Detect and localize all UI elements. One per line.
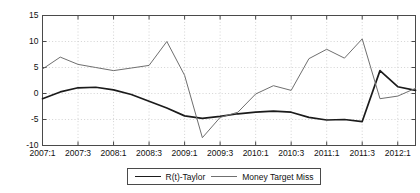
chart-figure: 151050-5-10 2007:12007:32008:12008:32009… [0,0,420,193]
plot-frame [43,16,416,146]
plot-canvas [0,0,420,193]
y-axis-tick-label: 10 [29,36,38,46]
y-axis-tick-label: 0 [34,88,39,98]
series-line-r-t-taylor [43,71,416,122]
y-axis-tick-label: -5 [31,114,39,124]
legend-line-swatch-icon [135,176,161,177]
y-axis-tick-label: 15 [29,10,38,20]
legend-line-swatch-icon [211,176,237,177]
legend-label: R(t)-Taylor [166,172,206,182]
legend-entry: R(t)-Taylor [135,172,206,182]
y-axis-tick-label: 5 [34,62,39,72]
x-axis-tick-label: 2012:1 [377,148,419,158]
chart-legend: R(t)-TaylorMoney Target Miss [127,168,321,185]
legend-label: Money Target Miss [242,172,313,182]
legend-entry: Money Target Miss [211,172,313,182]
